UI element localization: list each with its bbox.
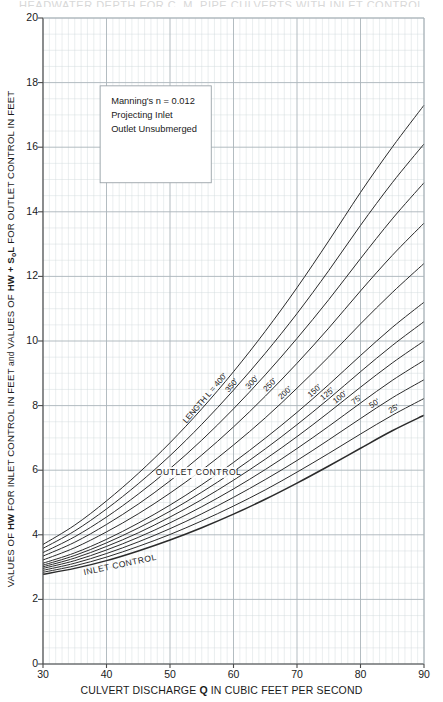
culvert-nomograph-chart: HEADWATER DEPTH FOR C. M. PIPE CULVERTS …: [0, 0, 443, 702]
legend-line-3: Outlet Unsubmerged: [111, 124, 197, 134]
plot-area: LENGTH L = 400'350'300'250'200'150'125'1…: [0, 0, 443, 702]
annotation-outlet-control: OUTLET CONTROL: [156, 467, 242, 477]
legend-line-1: Manning's n = 0.012: [111, 96, 195, 106]
legend-line-2: Projecting Inlet: [111, 110, 173, 120]
legend-box: Manning's n = 0.012Projecting InletOutle…: [100, 86, 211, 183]
